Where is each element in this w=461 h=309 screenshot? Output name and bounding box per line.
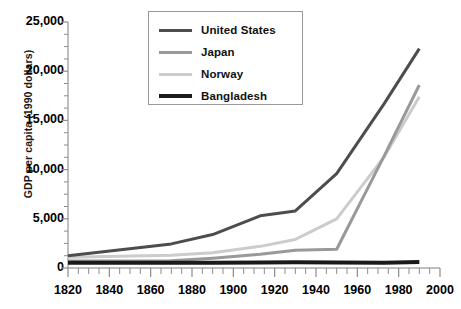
- legend-swatch-icon: [159, 73, 192, 76]
- legend-label: Norway: [201, 68, 243, 80]
- series-line-norway: [68, 97, 419, 257]
- chart-legend: United StatesJapanNorwayBangladesh: [148, 11, 303, 105]
- series-line-japan: [68, 85, 419, 261]
- legend-swatch-icon: [159, 51, 192, 54]
- gdp-per-capita-line-chart: GDP per capita (1990 dollars) 05,00010,0…: [0, 0, 461, 309]
- series-line-bangladesh: [68, 262, 419, 263]
- legend-item-bangladesh[interactable]: Bangladesh: [159, 87, 267, 105]
- legend-item-united-states[interactable]: United States: [159, 21, 276, 39]
- legend-item-japan[interactable]: Japan: [159, 43, 235, 61]
- legend-label: Japan: [201, 46, 235, 58]
- legend-label: Bangladesh: [201, 90, 267, 102]
- legend-swatch-icon: [159, 94, 192, 98]
- legend-label: United States: [201, 24, 276, 36]
- legend-item-norway[interactable]: Norway: [159, 65, 243, 83]
- legend-swatch-icon: [159, 29, 192, 32]
